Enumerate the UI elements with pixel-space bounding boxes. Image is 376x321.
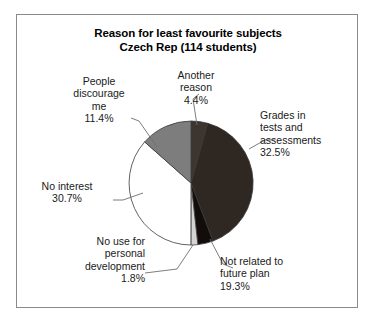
chart-frame: Reason for least favourite subjects Czec… (16, 14, 358, 308)
label-grades-line-1: Grades in (260, 109, 355, 121)
label-not-related-value: 19.3% (220, 280, 340, 292)
label-no-use-value: 1.8% (27, 272, 145, 284)
label-no-interest: No interest 30.7% (22, 180, 112, 205)
label-not-related: Not related to future plan 19.3% (220, 255, 340, 292)
label-not-related-line-1: Not related to (220, 255, 340, 267)
label-another-reason-value: 4.4% (159, 94, 233, 106)
label-another-reason: Another reason 4.4% (159, 69, 233, 106)
label-grades-value: 32.5% (260, 146, 355, 158)
label-people-discourage: People discourage me 11.4% (63, 75, 135, 125)
label-grades: Grades in tests and assessments 32.5% (260, 109, 355, 159)
label-not-related-line-2: future plan (220, 267, 340, 279)
label-no-interest-value: 30.7% (22, 192, 112, 204)
label-no-use-line-2: personal (27, 247, 145, 259)
label-grades-line-3: assessments (260, 134, 355, 146)
label-people-value: 11.4% (63, 112, 135, 124)
label-another-reason-line-2: reason (159, 81, 233, 93)
label-no-use-line-1: No use for (27, 235, 145, 247)
label-people-line-3: me (63, 100, 135, 112)
label-people-line-1: People (63, 75, 135, 87)
label-no-use-line-3: development (27, 260, 145, 272)
label-no-use: No use for personal development 1.8% (27, 235, 145, 285)
label-no-interest-line-1: No interest (22, 180, 112, 192)
label-grades-line-2: tests and (260, 121, 355, 133)
leader-line-no-use (145, 245, 193, 273)
label-people-line-2: discourage (63, 87, 135, 99)
label-another-reason-line-1: Another (159, 69, 233, 81)
